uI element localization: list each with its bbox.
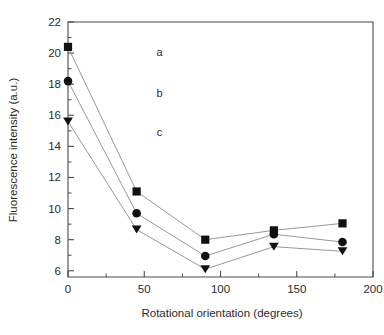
data-point-a — [64, 43, 72, 51]
y-tick-label: 20 — [48, 47, 61, 59]
y-tick-label: 8 — [55, 234, 61, 246]
y-tick-label: 12 — [48, 171, 61, 183]
series-label-b: b — [156, 87, 162, 99]
x-tick-label: 150 — [287, 283, 306, 295]
data-point-b — [270, 230, 279, 239]
fluorescence-intensity-chart: 050100150200 6810121416182022 abc Rotati… — [0, 0, 384, 335]
y-tick-label: 14 — [48, 140, 61, 152]
data-point-a — [133, 187, 141, 195]
x-tick-label: 50 — [138, 283, 151, 295]
x-tick-label: 100 — [211, 283, 230, 295]
series-label-a: a — [156, 46, 163, 58]
y-tick-label: 18 — [48, 78, 61, 90]
series-label-c: c — [157, 126, 163, 138]
y-tick-label: 22 — [48, 16, 61, 28]
data-point-b — [338, 238, 347, 247]
data-point-b — [64, 77, 73, 86]
x-tick-label: 0 — [65, 283, 71, 295]
data-point-a — [338, 219, 346, 227]
y-axis-title: Fluorescence intensity (a.u.) — [7, 78, 19, 223]
data-point-b — [201, 252, 210, 261]
y-tick-label: 16 — [48, 109, 61, 121]
data-point-b — [132, 209, 141, 218]
y-tick-label: 6 — [55, 265, 61, 277]
data-point-a — [201, 236, 209, 244]
x-axis-title: Rotational orientation (degrees) — [141, 307, 302, 319]
x-tick-label: 200 — [363, 283, 382, 295]
y-tick-label: 10 — [48, 203, 61, 215]
